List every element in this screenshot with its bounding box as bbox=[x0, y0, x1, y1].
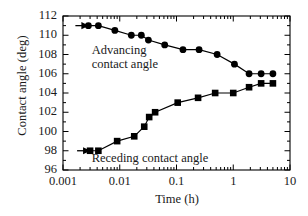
data-point bbox=[111, 27, 118, 34]
chart-figure: Contact angle (deg) Time (h) 96981001021… bbox=[0, 0, 308, 216]
x-tick-label: 0.1 bbox=[152, 174, 202, 189]
data-point bbox=[128, 32, 135, 39]
data-point bbox=[141, 123, 148, 130]
data-point bbox=[85, 22, 92, 29]
series-receding bbox=[77, 80, 276, 154]
data-point bbox=[131, 133, 138, 140]
data-point bbox=[114, 138, 121, 145]
data-point bbox=[180, 46, 187, 53]
data-point bbox=[146, 114, 153, 121]
data-point bbox=[230, 90, 237, 97]
x-tick-label: 1 bbox=[208, 174, 258, 189]
y-tick-label: 104 bbox=[23, 86, 57, 98]
y-tick-label: 102 bbox=[23, 105, 57, 117]
data-point bbox=[196, 46, 203, 53]
x-tick-label: 0.001 bbox=[38, 174, 88, 189]
data-point bbox=[258, 80, 265, 87]
data-point bbox=[270, 70, 277, 77]
annotation-receding: Receding contact angle bbox=[92, 151, 209, 166]
data-point bbox=[258, 70, 265, 77]
data-point bbox=[195, 95, 202, 102]
annotation-line: Advancing bbox=[92, 43, 158, 58]
y-tick-label: 98 bbox=[23, 144, 57, 156]
data-point bbox=[231, 61, 238, 68]
data-point bbox=[212, 90, 219, 97]
data-point bbox=[138, 32, 145, 39]
data-point bbox=[246, 70, 253, 77]
y-tick-label: 112 bbox=[23, 9, 57, 21]
x-axis-title: Time (h) bbox=[0, 192, 308, 207]
x-tick-label: 0.01 bbox=[95, 174, 145, 189]
x-axis-ticks bbox=[63, 16, 290, 170]
data-point bbox=[270, 80, 277, 87]
data-point bbox=[174, 99, 181, 106]
axes-frame bbox=[63, 16, 290, 170]
y-tick-label: 110 bbox=[23, 28, 57, 40]
y-tick-label: 108 bbox=[23, 48, 57, 60]
data-point bbox=[95, 22, 102, 29]
x-tick-label: 10 bbox=[265, 174, 308, 189]
data-point bbox=[152, 109, 159, 116]
annotation-line: contact angle bbox=[92, 57, 158, 72]
data-point bbox=[214, 51, 221, 58]
x-axis-title-text: Time (h) bbox=[109, 192, 199, 206]
annotation-advancing: Advancingcontact angle bbox=[92, 43, 158, 72]
y-axis-ticks bbox=[63, 16, 290, 170]
annotation-line: Receding contact angle bbox=[92, 151, 209, 166]
data-point bbox=[246, 84, 253, 91]
y-tick-label: 106 bbox=[23, 67, 57, 79]
y-tick-label: 100 bbox=[23, 125, 57, 137]
data-point bbox=[161, 41, 168, 48]
